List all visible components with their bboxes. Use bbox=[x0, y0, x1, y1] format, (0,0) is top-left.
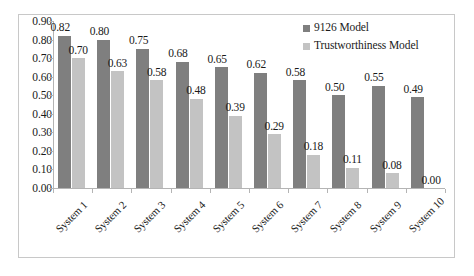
y-axis-tick-mark bbox=[49, 21, 53, 22]
x-axis-category-label: System 7 bbox=[289, 199, 324, 234]
y-axis-tick-mark bbox=[49, 77, 53, 78]
bar-value-label: 0.49 bbox=[403, 84, 422, 96]
bar[interactable] bbox=[293, 80, 306, 188]
chart-screenshot: 0.900.800.700.600.500.400.300.200.100.00… bbox=[0, 0, 474, 276]
bar[interactable] bbox=[215, 67, 228, 188]
x-axis-category-label: System 9 bbox=[368, 199, 403, 234]
bar[interactable] bbox=[346, 168, 359, 188]
legend-swatch-icon bbox=[303, 25, 310, 32]
x-axis-tick-mark bbox=[249, 189, 250, 193]
bar-group: 0.680.48 bbox=[171, 21, 210, 188]
bar[interactable] bbox=[72, 58, 85, 188]
x-axis-tick-mark bbox=[367, 189, 368, 193]
bar[interactable] bbox=[386, 173, 399, 188]
bar[interactable] bbox=[229, 116, 242, 188]
x-axis-category-label: System 10 bbox=[407, 196, 446, 235]
bar-group: 0.820.70 bbox=[53, 21, 92, 188]
bar-value-label: 0.80 bbox=[90, 26, 109, 38]
bar[interactable] bbox=[150, 80, 163, 188]
x-axis-tick-mark bbox=[406, 189, 407, 193]
bar-group: 0.800.63 bbox=[92, 21, 131, 188]
bar[interactable] bbox=[372, 86, 385, 188]
x-axis-tick-mark bbox=[92, 189, 93, 193]
y-axis-tick-labels: 0.900.800.700.600.500.400.300.200.100.00 bbox=[20, 16, 52, 192]
bar[interactable] bbox=[111, 71, 124, 188]
x-axis-category-label: System 6 bbox=[250, 199, 285, 234]
bar[interactable] bbox=[176, 62, 189, 188]
legend-swatch-icon bbox=[303, 43, 310, 50]
x-axis-category-label: System 1 bbox=[54, 199, 89, 234]
x-axis-category-labels: System 1System 2System 3System 4System 5… bbox=[53, 193, 445, 253]
y-axis-tick-mark bbox=[49, 95, 53, 96]
x-axis-tick-mark bbox=[445, 189, 446, 193]
y-axis-tick-mark bbox=[49, 114, 53, 115]
bar-group: 0.620.29 bbox=[249, 21, 288, 188]
bar-value-label: 0.00 bbox=[421, 175, 440, 187]
legend-entry[interactable]: Trustworthiness Model bbox=[303, 39, 448, 53]
bar-value-label: 0.11 bbox=[343, 154, 362, 166]
x-axis-tick-mark bbox=[327, 189, 328, 193]
bar-value-label: 0.58 bbox=[286, 67, 305, 79]
bar-value-label: 0.48 bbox=[186, 85, 205, 97]
x-axis-tick-mark bbox=[171, 189, 172, 193]
y-axis-tick-mark bbox=[49, 132, 53, 133]
y-axis-tick-mark bbox=[49, 169, 53, 170]
bar-value-label: 0.62 bbox=[247, 59, 266, 71]
x-axis-tick-mark bbox=[210, 189, 211, 193]
legend-entry[interactable]: 9126 Model bbox=[303, 21, 448, 35]
y-axis-tick-mark bbox=[49, 58, 53, 59]
bar[interactable] bbox=[307, 155, 320, 188]
y-axis-tick-mark bbox=[49, 40, 53, 41]
x-axis-category-label: System 8 bbox=[328, 199, 363, 234]
bar[interactable] bbox=[58, 36, 71, 188]
chart-legend: 9126 ModelTrustworthiness Model bbox=[303, 21, 448, 57]
bar[interactable] bbox=[190, 99, 203, 188]
bar-value-label: 0.82 bbox=[51, 22, 70, 34]
legend-label: 9126 Model bbox=[314, 22, 369, 34]
y-axis-tick-mark bbox=[49, 151, 53, 152]
bar-value-label: 0.75 bbox=[129, 35, 148, 47]
bar-value-label: 0.39 bbox=[225, 102, 244, 114]
x-axis-tick-mark bbox=[53, 189, 54, 193]
x-axis-category-label: System 4 bbox=[172, 199, 207, 234]
x-axis-tick-mark bbox=[288, 189, 289, 193]
x-axis-tick-mark bbox=[131, 189, 132, 193]
bar-value-label: 0.55 bbox=[364, 72, 383, 84]
x-axis-category-label: System 3 bbox=[132, 199, 167, 234]
bar-value-label: 0.68 bbox=[168, 48, 187, 60]
bar-value-label: 0.70 bbox=[69, 45, 88, 57]
bar-value-label: 0.29 bbox=[265, 121, 284, 133]
bar-group: 0.650.39 bbox=[210, 21, 249, 188]
bar[interactable] bbox=[332, 95, 345, 188]
bar-value-label: 0.50 bbox=[325, 82, 344, 94]
legend-label: Trustworthiness Model bbox=[314, 40, 419, 52]
bar-value-label: 0.58 bbox=[147, 67, 166, 79]
bar[interactable] bbox=[268, 134, 281, 188]
bar-value-label: 0.63 bbox=[108, 58, 127, 70]
bar-group: 0.750.58 bbox=[131, 21, 170, 188]
bar-value-label: 0.08 bbox=[382, 160, 401, 172]
x-axis-category-label: System 5 bbox=[211, 199, 246, 234]
bar-value-label: 0.65 bbox=[207, 54, 226, 66]
bar-value-label: 0.18 bbox=[304, 141, 323, 153]
x-axis-category-label: System 2 bbox=[93, 199, 128, 234]
